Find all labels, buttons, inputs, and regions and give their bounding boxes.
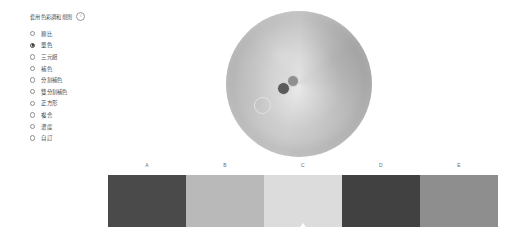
info-icon[interactable]: i <box>76 12 85 21</box>
harmony-rule-option-4[interactable]: 分割補色 <box>30 74 140 86</box>
harmony-rule-label: 正方形 <box>41 99 57 107</box>
harmony-rule-label: 單色 <box>41 41 51 49</box>
palette-swatch-A[interactable]: A <box>108 175 186 227</box>
harmony-rule-option-2[interactable]: 三元組 <box>30 51 140 63</box>
radio-icon[interactable] <box>30 124 35 129</box>
palette-swatch-label: D <box>342 162 420 168</box>
harmony-rule-label: 雙分割補色 <box>41 88 67 96</box>
radio-icon[interactable] <box>30 89 35 94</box>
harmony-rules-header: 套用色彩調和規則 i <box>30 11 140 21</box>
harmony-rule-option-1[interactable]: 單色 <box>30 40 140 52</box>
color-wheel-handle-a[interactable] <box>254 97 271 114</box>
harmony-rules-title: 套用色彩調和規則 <box>30 13 72 20</box>
palette-swatch-label: A <box>108 162 186 168</box>
palette-swatch-D[interactable]: D <box>342 175 420 227</box>
palette-swatch-E[interactable]: E <box>420 175 498 227</box>
radio-icon[interactable] <box>30 31 35 36</box>
harmony-rule-option-0[interactable]: 類比 <box>30 28 140 40</box>
palette-swatch-color[interactable] <box>264 175 342 227</box>
color-wheel-handle-c[interactable] <box>287 75 299 87</box>
palette-swatch-label: E <box>420 162 498 168</box>
palette-swatch-color[interactable] <box>342 175 420 227</box>
harmony-rule-option-5[interactable]: 雙分割補色 <box>30 86 140 98</box>
radio-icon[interactable] <box>30 54 35 59</box>
palette-strip: ABCDE <box>108 175 498 227</box>
harmony-rule-option-3[interactable]: 補色 <box>30 63 140 75</box>
harmony-rule-label: 複合 <box>41 111 51 119</box>
color-wheel-area <box>226 11 374 159</box>
radio-icon[interactable] <box>30 112 35 117</box>
palette-swatch-color[interactable] <box>186 175 264 227</box>
palette-swatch-B[interactable]: B <box>186 175 264 227</box>
harmony-rule-option-9[interactable]: 自訂 <box>30 132 140 144</box>
radio-icon[interactable] <box>30 77 35 82</box>
radio-icon[interactable] <box>30 66 35 71</box>
harmony-rule-option-8[interactable]: 濃度 <box>30 121 140 133</box>
palette-swatch-color[interactable] <box>420 175 498 227</box>
radio-icon[interactable] <box>30 43 35 48</box>
harmony-rule-label: 補色 <box>41 65 51 73</box>
radio-icon[interactable] <box>30 135 35 140</box>
harmony-rule-label: 三元組 <box>41 53 57 61</box>
harmony-rules-panel: 套用色彩調和規則 i 類比單色三元組補色分割補色雙分割補色正方形複合濃度自訂 <box>30 11 140 144</box>
radio-icon[interactable] <box>30 101 35 106</box>
palette-selection-marker-icon <box>300 223 306 227</box>
palette-swatch-color[interactable] <box>108 175 186 227</box>
harmony-rule-option-7[interactable]: 複合 <box>30 109 140 121</box>
harmony-rule-label: 自訂 <box>41 134 51 142</box>
harmony-rule-label: 類比 <box>41 30 51 38</box>
palette-swatch-label: C <box>264 162 342 168</box>
harmony-rules-list: 類比單色三元組補色分割補色雙分割補色正方形複合濃度自訂 <box>30 28 140 144</box>
harmony-rule-option-6[interactable]: 正方形 <box>30 98 140 110</box>
palette-swatch-C[interactable]: C <box>264 175 342 227</box>
harmony-rule-label: 分割補色 <box>41 76 62 84</box>
palette-swatch-label: B <box>186 162 264 168</box>
harmony-rule-label: 濃度 <box>41 123 51 131</box>
color-wheel[interactable] <box>226 11 372 157</box>
